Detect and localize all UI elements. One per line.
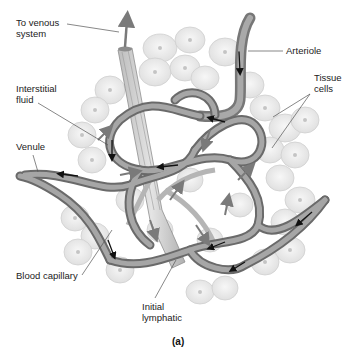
label-tissue-cells: Tissue cells: [314, 72, 342, 94]
label-arteriole: Arteriole: [286, 45, 321, 56]
capillary-lymphatic-figure: To venous system Arteriole Interstitial …: [0, 0, 359, 354]
label-blood-capillary: Blood capillary: [16, 270, 78, 281]
figure-caption: (a): [172, 336, 184, 347]
label-venule: Venule: [16, 141, 45, 152]
label-initial-lymphatic: Initial lymphatic: [142, 301, 182, 323]
label-to-venous-system: To venous system: [16, 17, 59, 39]
label-interstitial-fluid: Interstitial fluid: [16, 83, 57, 105]
